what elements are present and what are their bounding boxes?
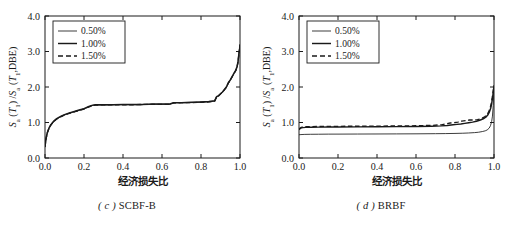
x-tick-label: 0.0 [293,161,306,172]
x-axis-title: 经济损失比 [118,175,169,187]
legend-label-0: 0.50% [81,26,106,36]
chart-svg-scbf-b: 0.00.20.40.60.81.00.01.02.03.04.0经济损失比Sa… [0,0,254,200]
y-tick-label: 1.0 [28,117,41,128]
y-tick-label: 2.0 [28,82,41,93]
x-tick-label: 0.6 [410,161,423,172]
series-curve-100 [299,85,494,129]
chart-panel-scbf-b: 0.00.20.40.60.81.00.01.02.03.04.0经济损失比Sa… [0,0,254,225]
y-tick-label: 2.0 [282,82,295,93]
x-tick-label: 1.0 [488,161,501,172]
y-tick-label: 4.0 [282,11,295,22]
legend: 0.50%1.00%1.50% [53,21,125,63]
legend-label-0: 0.50% [335,26,360,36]
curve-layer [299,85,494,135]
x-tick-label: 0.2 [78,161,91,172]
panel-caption-text-d: BRBF [378,200,406,211]
panel-caption-brbf: ( d ) BRBF [254,200,508,211]
x-tick-label: 0.0 [39,161,52,172]
chart-panel-brbf: 0.00.20.40.60.81.00.01.02.03.04.0经济损失比Sa… [254,0,508,225]
y-tick-label: 3.0 [282,46,295,57]
figure-panel-row: 0.00.20.40.60.81.00.01.02.03.04.0经济损失比Sa… [0,0,508,225]
legend-label-1: 1.00% [335,39,360,49]
panel-caption-scbf-b: ( c ) SCBF-B [0,200,254,211]
y-axis-title: Sa (T1) /Sa (T1,DBE) [7,47,22,127]
panel-caption-index-c: ( c ) [98,200,116,211]
y-tick-label: 0.0 [28,153,41,164]
panel-caption-text-c: SCBF-B [119,200,156,211]
x-axis-title: 经济损失比 [372,175,423,187]
panel-caption-index-d: ( d ) [357,200,376,211]
legend: 0.50%1.00%1.50% [307,21,379,63]
legend-label-2: 1.50% [81,51,106,61]
legend-label-2: 1.50% [335,51,360,61]
x-tick-label: 0.4 [371,161,384,172]
x-tick-label: 0.6 [156,161,169,172]
y-tick-label: 0.0 [282,153,295,164]
x-tick-label: 0.8 [449,161,462,172]
x-tick-label: 0.2 [332,161,345,172]
x-tick-label: 1.0 [234,161,247,172]
chart-svg-brbf: 0.00.20.40.60.81.00.01.02.03.04.0经济损失比Sa… [254,0,508,200]
y-tick-label: 4.0 [28,11,41,22]
y-tick-label: 3.0 [28,46,41,57]
x-tick-label: 0.4 [117,161,130,172]
legend-label-1: 1.00% [81,39,106,49]
y-tick-label: 1.0 [282,117,295,128]
x-tick-label: 0.8 [195,161,208,172]
y-axis-title: Sa (T1) /Sa (T1,DBE) [261,47,276,127]
